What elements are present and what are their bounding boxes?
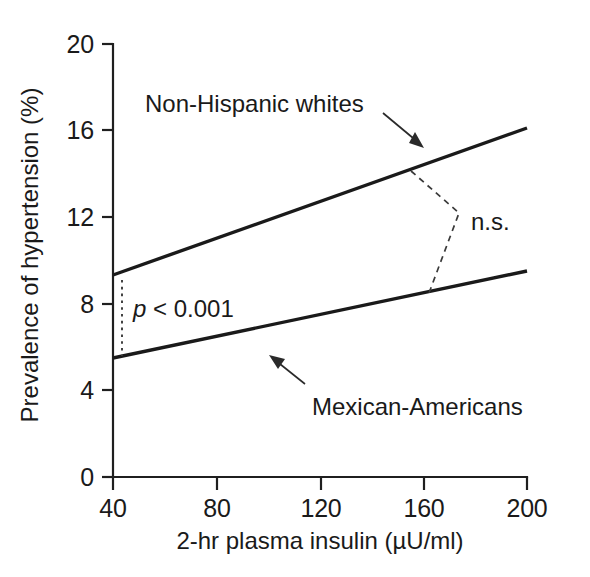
y-tick-label-0: 0 (46, 463, 94, 492)
y-tick-label-16: 16 (46, 116, 94, 145)
y-tick-label-4: 4 (46, 376, 94, 405)
x-tick-label-120: 120 (300, 494, 341, 523)
not-significant-annotation: n.s. (471, 208, 510, 236)
y-tick-label-12: 12 (46, 203, 94, 232)
series-label-non-hispanic-whites: Non-Hispanic whites (145, 90, 364, 118)
series-line-non-hispanic-whites (113, 128, 527, 275)
ns-connector-bracket (411, 171, 459, 293)
y-tick-label-8: 8 (46, 290, 94, 319)
x-tick-label-80: 80 (203, 494, 230, 523)
y-axis (102, 44, 113, 477)
series-label-mexican-americans: Mexican-Americans (312, 393, 523, 421)
chart-figure: 20 16 12 8 4 0 40 80 120 160 200 2-hr pl… (0, 0, 590, 577)
y-axis-title: Prevalence of hypertension (%) (16, 88, 44, 423)
non-hispanic-whites-arrowhead (409, 132, 424, 148)
x-tick-label-200: 200 (506, 494, 547, 523)
x-axis (113, 477, 527, 490)
x-tick-label-40: 40 (99, 494, 126, 523)
p-value-symbol: p (133, 295, 146, 322)
p-value-annotation: p < 0.001 (133, 295, 234, 323)
x-axis-title: 2-hr plasma insulin (µU/ml) (176, 527, 463, 555)
p-value-threshold: < 0.001 (146, 295, 233, 322)
y-tick-label-20: 20 (46, 30, 94, 59)
x-tick-label-160: 160 (403, 494, 444, 523)
